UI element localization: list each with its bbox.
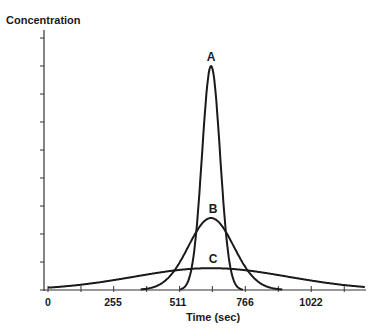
x-axis-label: Time (sec) bbox=[186, 311, 241, 323]
x-tick-766: 766 bbox=[236, 296, 254, 308]
x-tick-511: 511 bbox=[170, 296, 187, 308]
curve-a-label: A bbox=[207, 50, 216, 64]
x-tick-255: 255 bbox=[104, 296, 122, 308]
curve-c-label: C bbox=[209, 252, 218, 266]
curve-c bbox=[48, 268, 365, 287]
axes bbox=[40, 30, 366, 292]
curve-b-label: B bbox=[209, 202, 218, 216]
concentration-chart: Concentration 0 255 511 766 1022 Time (s… bbox=[0, 0, 378, 336]
y-axis-label: Concentration bbox=[6, 14, 81, 26]
x-tick-labels: 0 255 511 766 1022 bbox=[45, 296, 323, 308]
curves bbox=[48, 66, 365, 290]
x-tick-1022: 1022 bbox=[299, 296, 323, 308]
x-tick-0: 0 bbox=[45, 296, 51, 308]
